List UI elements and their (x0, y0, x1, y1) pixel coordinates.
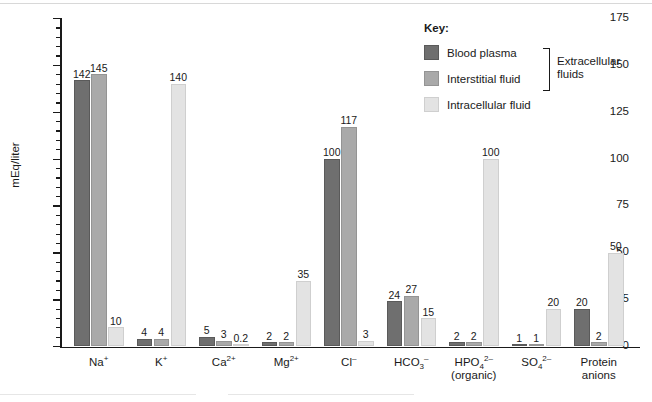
page-top-rule (0, 3, 652, 4)
y-tick-major (53, 112, 60, 113)
y-tick-minor (56, 327, 61, 328)
y-tick-minor (56, 215, 61, 216)
y-tick-minor (56, 140, 61, 141)
bar[interactable]: 2 (591, 342, 607, 346)
bar-value-label: 5 (204, 325, 210, 336)
bar[interactable]: 140 (171, 84, 187, 346)
bar-value-label: 3 (221, 329, 227, 340)
legend-color-swatch (424, 71, 439, 86)
bar[interactable]: 100 (483, 159, 499, 346)
bar[interactable]: 4 (154, 339, 170, 346)
bar[interactable]: 2 (262, 342, 278, 346)
bar-value-label: 140 (169, 72, 187, 83)
bar-value-label: 20 (576, 297, 588, 308)
y-tick-minor (56, 280, 61, 281)
y-axis-title: mEq/liter (8, 0, 22, 330)
y-tick-minor (56, 177, 61, 178)
bar-value-label: 100 (482, 147, 500, 158)
extracellular-bracket-label: Extracellular fluids (557, 55, 620, 81)
bar[interactable]: 2 (466, 342, 482, 346)
bar[interactable]: 10 (108, 327, 124, 346)
bar-value-label: 27 (405, 284, 417, 295)
bar-value-label: 50 (610, 241, 622, 252)
bar-value-label: 20 (547, 297, 559, 308)
y-tick-label: 0 (623, 340, 629, 352)
bar-value-label: 1 (533, 333, 539, 344)
bar-value-label: 4 (141, 327, 147, 338)
bar[interactable]: 27 (404, 296, 420, 347)
bar-value-label: 15 (422, 307, 434, 318)
bar-value-label: 145 (90, 63, 108, 74)
bar[interactable]: 4 (137, 339, 153, 346)
y-tick-minor (56, 37, 61, 38)
bar[interactable]: 35 (296, 281, 312, 347)
bar-value-label: 3 (363, 329, 369, 340)
bar-value-label: 100 (323, 147, 341, 158)
bar[interactable]: 100 (324, 159, 340, 346)
legend-color-swatch (424, 97, 439, 112)
bar-value-label: 2 (283, 331, 289, 342)
bar[interactable]: 2 (279, 342, 295, 346)
y-tick-major (53, 205, 60, 206)
bar[interactable]: 5 (199, 337, 215, 346)
y-tick-minor (56, 130, 61, 131)
y-tick-minor (56, 262, 61, 263)
legend-color-swatch (424, 45, 439, 60)
page-bottom-rule-left (0, 394, 196, 395)
bar-value-label: 2 (596, 331, 602, 342)
bar[interactable]: 3 (358, 341, 374, 347)
y-tick-minor (56, 46, 61, 47)
bar-value-label: 35 (297, 269, 309, 280)
y-tick-minor (56, 84, 61, 85)
bar[interactable]: 1 (512, 344, 528, 346)
y-axis-line (60, 18, 62, 348)
y-tick-minor (56, 243, 61, 244)
bar-value-label: 4 (158, 327, 164, 338)
bar-group: 44140 (137, 18, 187, 346)
y-axis-title-label: mEq/liter (9, 142, 21, 187)
chart-legend: Key: Blood plasmaInterstitial fluidIntra… (424, 22, 652, 122)
y-tick-minor (56, 290, 61, 291)
bar[interactable]: 50 (608, 253, 624, 347)
page-bottom-rule-right (228, 394, 414, 395)
legend-item[interactable]: Intracellular fluid (424, 96, 652, 113)
bar[interactable]: 145 (91, 74, 107, 346)
bar[interactable]: 1 (529, 344, 545, 346)
bar-group: 14214510 (74, 18, 124, 346)
y-tick-minor (56, 271, 61, 272)
x-axis-line (60, 347, 640, 349)
bar[interactable]: 2 (449, 342, 465, 346)
legend-item-label: Blood plasma (447, 47, 517, 59)
y-tick-major (53, 299, 60, 300)
bar[interactable]: 0.2 (233, 344, 249, 346)
bar[interactable]: 20 (574, 309, 590, 346)
bar-value-label: 2 (454, 331, 460, 342)
y-tick-minor (56, 121, 61, 122)
y-tick-minor (56, 224, 61, 225)
bar-value-label: 10 (110, 316, 122, 327)
bar[interactable]: 15 (421, 318, 437, 346)
bar[interactable]: 20 (546, 309, 562, 346)
bar[interactable]: 3 (216, 341, 232, 347)
bar-value-label: 1 (516, 333, 522, 344)
y-tick-major (53, 346, 60, 347)
y-tick-minor (56, 318, 61, 319)
bar-group: 530.2 (199, 18, 249, 346)
bar-group: 2235 (262, 18, 312, 346)
y-tick-minor (56, 27, 61, 28)
bar-value-label: 0.2 (233, 333, 248, 344)
bar-value-label: 2 (471, 331, 477, 342)
y-tick-minor (56, 55, 61, 56)
y-tick-major (53, 18, 60, 19)
bracket-label-line2: fluids (557, 68, 584, 80)
bar-value-label: 2 (266, 331, 272, 342)
legend-item-label: Intracellular fluid (447, 99, 531, 111)
y-tick-minor (56, 149, 61, 150)
bar[interactable]: 24 (387, 301, 403, 346)
bar[interactable]: 117 (341, 127, 357, 346)
bar-value-label: 142 (73, 69, 91, 80)
y-tick-minor (56, 309, 61, 310)
bar[interactable]: 142 (74, 80, 90, 346)
y-tick-minor (56, 93, 61, 94)
y-tick-minor (56, 74, 61, 75)
